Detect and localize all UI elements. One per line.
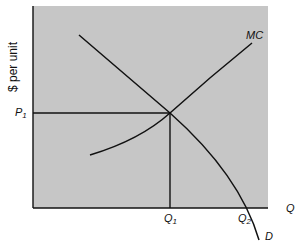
q1-label: Q1 [164, 213, 177, 226]
demand-label: D [265, 231, 273, 242]
mc-label: MC [246, 30, 263, 41]
q-axis-label: Q [286, 203, 295, 214]
p1-label: P1 [15, 107, 27, 120]
q1-label-main: Q [164, 212, 173, 224]
q2-label: Q2 [238, 213, 251, 226]
q2-label-main: Q [238, 212, 247, 224]
plot-background [33, 6, 268, 208]
p1-label-sub: 1 [22, 111, 26, 120]
y-axis-label: $ per unit [6, 42, 20, 92]
q2-label-sub: 2 [247, 217, 251, 226]
q1-label-sub: 1 [173, 217, 177, 226]
